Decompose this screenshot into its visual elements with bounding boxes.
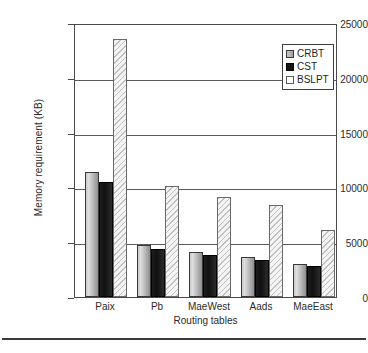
bar-aads-crbt	[241, 257, 255, 297]
x-tick-label-maewest: MaeWest	[188, 301, 230, 312]
legend: CRBT CST BSLPT	[282, 44, 334, 90]
bar-pb-cst	[151, 249, 165, 297]
legend-swatch-bslpt-icon	[286, 76, 294, 84]
bar-paix-cst	[99, 182, 113, 297]
x-tick-label-aads: Aads	[250, 301, 273, 312]
x-tick-label-pb: Pb	[151, 301, 163, 312]
bar-maewest-cst	[203, 255, 217, 297]
bar-aads-bslpt	[269, 205, 283, 297]
bar-pb-bslpt	[165, 186, 179, 297]
legend-label-crbt: CRBT	[297, 48, 324, 59]
figure-container: Memory requirement (KB) 0 5000 10000 150…	[0, 0, 368, 353]
bar-aads-cst	[255, 260, 269, 297]
bar-maewest-bslpt	[217, 197, 231, 297]
bar-paix-crbt	[85, 172, 99, 297]
plot-area: CRBT CST BSLPT	[74, 24, 337, 298]
legend-label-bslpt: BSLPT	[297, 74, 329, 85]
legend-item-crbt: CRBT	[286, 47, 329, 60]
legend-item-cst: CST	[286, 60, 329, 73]
bar-maeeast-crbt	[293, 264, 307, 297]
bar-pb-crbt	[137, 245, 151, 297]
bar-maeeast-bslpt	[321, 230, 335, 297]
bottom-divider	[2, 338, 366, 340]
bar-maeeast-cst	[307, 266, 321, 297]
legend-swatch-crbt-icon	[286, 50, 294, 58]
x-tick-label-maeeast: MaeEast	[293, 301, 332, 312]
y-tick-mark-0	[68, 298, 74, 299]
x-tick-label-paix: Paix	[95, 301, 114, 312]
x-axis-title: Routing tables	[74, 315, 337, 326]
legend-item-bslpt: BSLPT	[286, 73, 329, 86]
y-axis-title: Memory requirement (KB)	[33, 58, 44, 258]
bar-paix-bslpt	[113, 39, 127, 297]
legend-swatch-cst-icon	[286, 63, 294, 71]
legend-label-cst: CST	[297, 61, 317, 72]
bar-maewest-crbt	[189, 252, 203, 297]
